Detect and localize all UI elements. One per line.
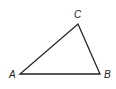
- vertex-label-b: B: [104, 69, 111, 80]
- vertex-label-c: C: [74, 9, 82, 20]
- triangle-diagram: A B C: [0, 0, 116, 89]
- triangle-abc: [20, 24, 100, 74]
- vertex-label-a: A: [8, 69, 16, 80]
